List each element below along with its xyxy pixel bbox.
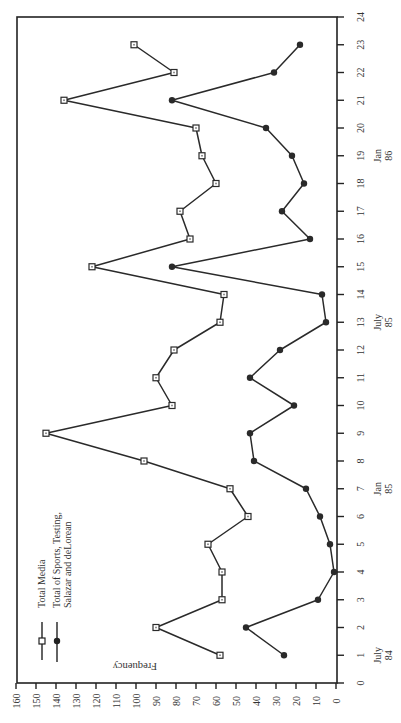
y-tick-label: 80 xyxy=(171,696,182,706)
filled-circle-marker xyxy=(169,264,175,270)
marker-dot xyxy=(219,321,221,323)
marker-dot xyxy=(155,377,157,379)
x-tick-label: 8 xyxy=(355,459,366,464)
y-tick-label: 90 xyxy=(151,696,162,706)
x-tick-label: 9 xyxy=(355,431,366,436)
marker-dot xyxy=(173,72,175,74)
series-line xyxy=(172,45,334,656)
y-tick-label: 120 xyxy=(91,694,102,709)
filled-circle-marker xyxy=(247,430,253,436)
x-tick-label: 16 xyxy=(355,234,366,244)
y-tick-label: 10 xyxy=(311,696,322,706)
legend-item-sports: Total of Sports, Testing, Salazar and de… xyxy=(51,512,73,662)
x-tick-label: 2 xyxy=(355,625,366,630)
x-tick-label: 21 xyxy=(355,95,366,105)
y-tick-label: 70 xyxy=(191,696,202,706)
x-tick-label: 14 xyxy=(355,290,366,300)
line-chart: 0123456789101112131415161718192021222324… xyxy=(0,0,401,723)
date-label-year: 85 xyxy=(383,317,394,327)
filled-circle-marker xyxy=(327,541,333,547)
marker-dot xyxy=(63,99,65,101)
y-tick-label: 40 xyxy=(251,696,262,706)
marker-dot xyxy=(179,210,181,212)
y-tick-label: 20 xyxy=(291,696,302,706)
filled-circle-marker xyxy=(303,486,309,492)
marker-dot xyxy=(247,516,249,518)
series-layer xyxy=(43,42,337,659)
x-axis-ticks: 0123456789101112131415161718192021222324 xyxy=(337,12,366,686)
x-tick-label: 3 xyxy=(355,597,366,602)
y-tick-label: 60 xyxy=(211,696,222,706)
marker-dot xyxy=(45,432,47,434)
marker-dot xyxy=(229,488,231,490)
x-tick-label: 13 xyxy=(355,317,366,327)
date-label-year: 86 xyxy=(383,151,394,161)
marker-dot xyxy=(173,349,175,351)
x-tick-label: 11 xyxy=(355,373,366,383)
chart-container: 0123456789101112131415161718192021222324… xyxy=(0,0,401,723)
y-tick-label: 140 xyxy=(51,694,62,709)
marker-dot xyxy=(195,127,197,129)
marker-dot xyxy=(133,44,135,46)
date-label-year: 85 xyxy=(383,484,394,494)
marker-dot xyxy=(215,183,217,185)
x-tick-label: 1 xyxy=(355,653,366,658)
filled-circle-marker xyxy=(291,402,297,408)
x-tick-label: 5 xyxy=(355,542,366,547)
filled-circle-marker xyxy=(263,125,269,131)
marker-dot xyxy=(189,238,191,240)
filled-circle-marker xyxy=(319,291,325,297)
legend-item-total-media: Total Media xyxy=(36,559,47,660)
filled-circle-marker xyxy=(281,652,287,658)
y-axis-ticks: 0102030405060708090100110120130140150160 xyxy=(11,683,342,709)
x-tick-label: 12 xyxy=(355,345,366,355)
x-tick-label: 7 xyxy=(355,486,366,491)
filled-circle-marker xyxy=(279,208,285,214)
filled-circle-marker xyxy=(315,597,321,603)
date-label-month: Jan xyxy=(372,482,383,495)
x-tick-label: 22 xyxy=(355,68,366,78)
marker-dot xyxy=(155,627,157,629)
marker-dot xyxy=(207,543,209,545)
y-tick-label: 130 xyxy=(71,694,82,709)
filled-circle-marker xyxy=(301,180,307,186)
marker-dot xyxy=(171,405,173,407)
series-sports-testing-salazar-delorean xyxy=(169,42,337,659)
legend: Total Media Total of Sports, Testing, Sa… xyxy=(36,512,73,662)
y-tick-label: 110 xyxy=(111,694,122,709)
series-total-media xyxy=(43,42,251,659)
date-label-month: Jan xyxy=(372,149,383,162)
date-label-month: July xyxy=(372,647,383,664)
open-square-icon xyxy=(39,638,45,644)
filled-circle-marker xyxy=(277,347,283,353)
series-line xyxy=(46,45,248,656)
x-tick-label: 17 xyxy=(355,206,366,216)
marker-dot xyxy=(91,266,93,268)
legend-label-sports-line1: Total of Sports, Testing, xyxy=(51,512,62,608)
y-tick-label: 150 xyxy=(31,694,42,709)
marker-dot xyxy=(201,155,203,157)
x-tick-label: 18 xyxy=(355,179,366,189)
legend-label-sports-line2: Salazar and deLorean xyxy=(62,521,73,608)
y-tick-label: 0 xyxy=(331,699,342,704)
filled-circle-marker xyxy=(307,236,313,242)
filled-circle-icon xyxy=(54,638,60,644)
x-tick-label: 23 xyxy=(355,40,366,50)
x-tick-label: 19 xyxy=(355,151,366,161)
filled-circle-marker xyxy=(169,97,175,103)
y-tick-label: 100 xyxy=(131,694,142,709)
y-tick-label: 30 xyxy=(271,696,282,706)
filled-circle-marker xyxy=(323,319,329,325)
marker-dot xyxy=(143,460,145,462)
x-tick-label: 6 xyxy=(355,514,366,519)
y-tick-label: 160 xyxy=(11,694,22,709)
marker-dot xyxy=(223,294,225,296)
x-tick-label: 15 xyxy=(355,262,366,272)
y-tick-label: 50 xyxy=(231,696,242,706)
filled-circle-marker xyxy=(317,513,323,519)
marker-dot xyxy=(219,654,221,656)
y-axis-title: Frequency xyxy=(112,661,157,672)
x-tick-label: 4 xyxy=(355,570,366,575)
date-label-year: 84 xyxy=(383,650,394,660)
filled-circle-marker xyxy=(297,42,303,48)
